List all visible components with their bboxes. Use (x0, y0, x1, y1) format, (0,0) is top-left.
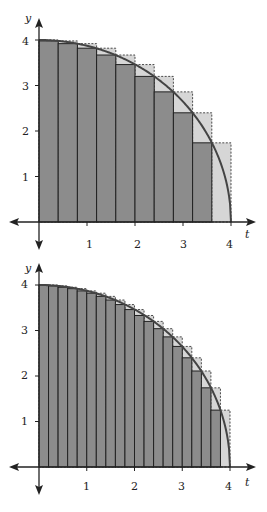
upper-rect (212, 143, 231, 222)
x-tick-4: 4 (225, 480, 232, 493)
lower-rect (58, 44, 77, 222)
x-tick-3: 3 (178, 480, 185, 493)
x-tick-1: 1 (86, 238, 93, 251)
lower-rect (116, 65, 135, 222)
y-tick-2: 2 (21, 369, 28, 382)
x-tick-4: 4 (226, 238, 233, 251)
y-tick-2: 2 (22, 125, 29, 138)
lower-rect (39, 41, 58, 222)
lower-rect (58, 287, 68, 467)
caption-fragment (2, 505, 264, 511)
lower-rect (135, 315, 145, 467)
lower-rect (173, 346, 183, 467)
lower-rect (77, 48, 96, 222)
t-axis-label: t (245, 228, 250, 241)
lower-rect (193, 143, 212, 222)
x-tick-3: 3 (180, 238, 187, 251)
lower-rect (211, 410, 221, 467)
lower-rect (173, 113, 192, 222)
lower-rect (154, 92, 173, 222)
lower-rect (135, 76, 154, 222)
t-axis-label: t (245, 476, 250, 489)
lower-rect (39, 285, 49, 467)
riemann-sum-charts: y t 1 2 3 4 1 2 3 4 y t 1 2 3 4 1 2 3 4 (0, 0, 267, 512)
lower-rect (192, 371, 202, 467)
lower-rect (77, 291, 87, 467)
y-axis-label: y (24, 12, 32, 25)
lower-rect (49, 286, 59, 467)
y-axis-label: y (24, 262, 32, 275)
lower-rect (97, 55, 116, 222)
lower-rect (96, 296, 106, 467)
x-tick-1: 1 (83, 480, 90, 493)
y-tick-1: 1 (21, 415, 28, 428)
y-tick-3: 3 (21, 324, 28, 337)
lower-rect (144, 321, 154, 467)
lower-rect (125, 310, 135, 467)
chart-n10 (9, 18, 256, 250)
x-tick-2: 2 (131, 480, 138, 493)
lower-rect (68, 289, 78, 467)
lower-rect (182, 358, 192, 467)
y-tick-3: 3 (22, 80, 29, 93)
lower-rect (87, 293, 97, 467)
y-tick-4: 4 (21, 278, 28, 291)
chart-n20 (9, 263, 256, 495)
lower-rect (115, 305, 125, 467)
lower-rect (163, 337, 173, 467)
lower-rect (201, 388, 211, 467)
lower-rect (106, 300, 116, 467)
y-tick-1: 1 (22, 171, 29, 184)
lower-rect (154, 329, 164, 467)
x-tick-2: 2 (134, 238, 141, 251)
y-tick-4: 4 (22, 35, 29, 48)
